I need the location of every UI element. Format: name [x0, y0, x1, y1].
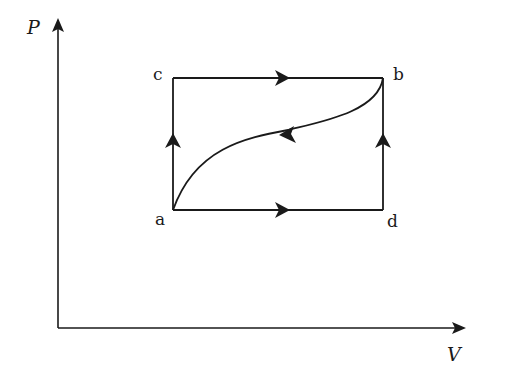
path-b-a-curve [173, 78, 383, 210]
point-label-c: c [153, 64, 163, 84]
pv-diagram: P V c b a d [0, 0, 517, 387]
y-axis-label: P [26, 16, 41, 38]
cycle-paths [173, 78, 383, 210]
point-label-b: b [393, 64, 404, 84]
point-label-d: d [387, 211, 398, 231]
point-label-a: a [155, 209, 165, 229]
x-axis-label: V [447, 343, 463, 365]
